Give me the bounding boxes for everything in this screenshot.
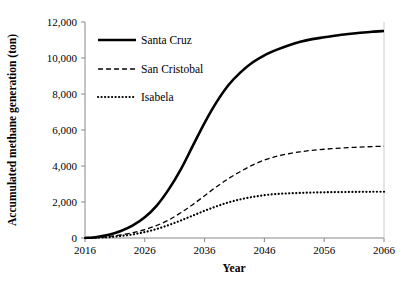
data-series-group bbox=[85, 31, 384, 238]
y-tick-label: 4,000 bbox=[52, 160, 77, 172]
x-tick-label: 2056 bbox=[313, 244, 336, 256]
y-tick-label: 2,000 bbox=[52, 196, 77, 208]
y-axis-tick-labels: 02,0004,0006,0008,00010,00012,000 bbox=[47, 16, 78, 244]
x-axis-tick-labels: 201620262036204620562066 bbox=[74, 244, 396, 256]
x-tick-label: 2026 bbox=[134, 244, 157, 256]
x-tick-label: 2066 bbox=[373, 244, 396, 256]
chart-canvas: 02,0004,0006,0008,00010,00012,000 201620… bbox=[0, 0, 410, 283]
legend: Santa CruzSan CristobalIsabela bbox=[98, 34, 203, 103]
chart-figure: Accumulated methane generation (ton) 02,… bbox=[0, 0, 410, 283]
y-axis-ticks bbox=[81, 22, 85, 238]
x-axis-ticks bbox=[85, 238, 384, 242]
legend-label-san-cristobal: San Cristobal bbox=[141, 63, 203, 75]
series-line-santa-cruz bbox=[85, 31, 384, 238]
legend-label-isabela: Isabela bbox=[141, 91, 174, 103]
y-tick-label: 0 bbox=[72, 232, 78, 244]
y-tick-label: 6,000 bbox=[52, 124, 77, 136]
y-tick-label: 8,000 bbox=[52, 88, 77, 100]
x-tick-label: 2046 bbox=[253, 244, 276, 256]
x-tick-label: 2036 bbox=[194, 244, 217, 256]
series-line-isabela bbox=[85, 192, 384, 238]
x-axis-title: Year bbox=[223, 262, 246, 274]
legend-label-santa-cruz: Santa Cruz bbox=[141, 34, 192, 46]
y-tick-label: 12,000 bbox=[47, 16, 78, 28]
x-tick-label: 2016 bbox=[74, 244, 97, 256]
y-tick-label: 10,000 bbox=[47, 52, 78, 64]
